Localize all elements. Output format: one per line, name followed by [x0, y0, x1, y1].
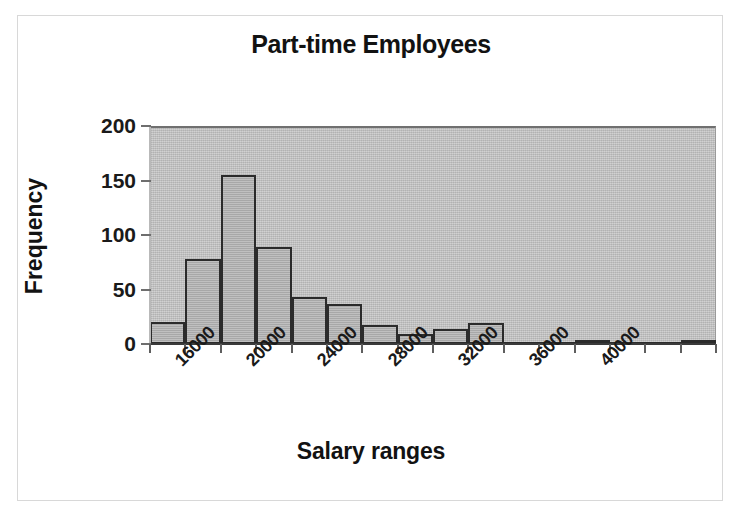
bar — [150, 322, 185, 344]
y-axis-tick — [141, 125, 151, 127]
x-axis-tick — [149, 344, 151, 353]
y-axis-tick-label: 200 — [0, 114, 136, 138]
y-axis-tick-label: 150 — [0, 169, 136, 193]
chart-title: Part-time Employees — [0, 30, 742, 59]
y-axis-tick-label: 0 — [0, 332, 136, 356]
y-axis-tick — [141, 234, 151, 236]
x-axis-tick — [644, 344, 646, 353]
x-axis-tick — [680, 344, 682, 353]
x-axis-tick — [574, 344, 576, 353]
bar-series — [150, 128, 715, 344]
x-axis-tick — [361, 344, 363, 353]
x-axis-tick — [432, 344, 434, 353]
x-axis-tick — [715, 344, 717, 353]
bar — [292, 297, 327, 344]
y-axis-tick-label: 100 — [0, 223, 136, 247]
x-axis-tick — [291, 344, 293, 353]
x-axis-tick — [220, 344, 222, 353]
bar — [433, 329, 468, 344]
chart-figure: Part-time Employees Frequency 0501001502… — [0, 0, 742, 519]
bar — [221, 175, 256, 344]
y-axis-tick — [141, 289, 151, 291]
x-axis-title: Salary ranges — [0, 438, 742, 465]
y-axis-tick-label: 50 — [0, 278, 136, 302]
x-axis-tick — [503, 344, 505, 353]
bar — [362, 325, 397, 344]
plot-area — [150, 126, 716, 344]
y-axis-tick — [141, 180, 151, 182]
